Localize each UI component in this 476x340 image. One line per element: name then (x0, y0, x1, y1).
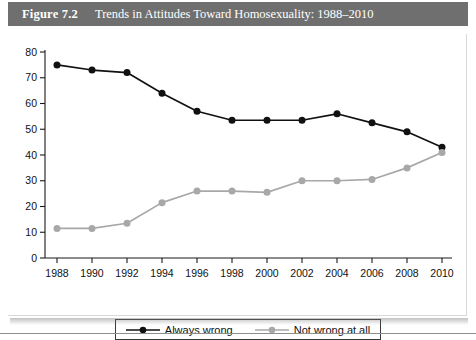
data-point-always-wrong (124, 69, 131, 76)
data-point-always-wrong (89, 67, 96, 74)
y-tick-label: 20 (25, 200, 37, 212)
page-bottom-rule (0, 333, 476, 334)
data-point-not-wrong-at-all (299, 177, 306, 184)
data-point-always-wrong (159, 90, 166, 97)
data-point-not-wrong-at-all (264, 189, 271, 196)
chart-container: 0102030405060708019881990199219941996199… (8, 34, 467, 316)
data-point-always-wrong (334, 110, 341, 117)
x-tick-label: 1990 (80, 267, 104, 279)
x-tick-label: 1988 (45, 267, 69, 279)
data-point-not-wrong-at-all (229, 188, 236, 195)
data-point-not-wrong-at-all (404, 164, 411, 171)
y-tick-label: 40 (25, 149, 37, 161)
x-tick-label: 1998 (220, 267, 244, 279)
figure-number-label: Figure 7.2 (22, 7, 78, 22)
data-point-not-wrong-at-all (439, 149, 446, 156)
series-line-not-wrong-at-all (57, 152, 442, 228)
data-point-not-wrong-at-all (334, 177, 341, 184)
figure-title: Trends in Attitudes Toward Homosexuality… (95, 7, 374, 22)
data-point-always-wrong (369, 119, 376, 126)
data-point-not-wrong-at-all (54, 225, 61, 232)
y-tick-label: 0 (31, 252, 37, 264)
data-point-not-wrong-at-all (89, 225, 96, 232)
data-point-always-wrong (264, 117, 271, 124)
data-point-always-wrong (194, 108, 201, 115)
x-tick-label: 2004 (325, 267, 349, 279)
series-line-always-wrong (57, 65, 442, 147)
y-tick-label: 60 (25, 97, 37, 109)
x-tick-label: 2002 (290, 267, 314, 279)
data-point-always-wrong (404, 128, 411, 135)
data-point-always-wrong (229, 117, 236, 124)
x-tick-label: 2006 (360, 267, 384, 279)
y-tick-label: 70 (25, 71, 37, 83)
x-tick-label: 2010 (430, 267, 454, 279)
data-point-not-wrong-at-all (124, 220, 131, 227)
data-point-always-wrong (299, 117, 306, 124)
y-tick-label: 80 (25, 46, 37, 58)
figure-header-bar: Figure 7.2 Trends in Attitudes Toward Ho… (8, 2, 468, 26)
x-tick-label: 1994 (150, 267, 174, 279)
line-chart-svg: 0102030405060708019881990199219941996199… (8, 34, 467, 316)
data-point-not-wrong-at-all (194, 188, 201, 195)
plot-area: 0102030405060708019881990199219941996199… (8, 34, 467, 316)
data-point-not-wrong-at-all (159, 199, 166, 206)
x-tick-label: 1996 (185, 267, 209, 279)
x-tick-label: 2008 (395, 267, 419, 279)
x-tick-label: 1992 (115, 267, 139, 279)
page-drop-shadow (10, 318, 468, 325)
y-tick-label: 10 (25, 226, 37, 238)
data-point-always-wrong (54, 61, 61, 68)
y-tick-label: 50 (25, 123, 37, 135)
x-tick-label: 2000 (255, 267, 279, 279)
y-tick-label: 30 (25, 174, 37, 186)
data-point-not-wrong-at-all (369, 176, 376, 183)
